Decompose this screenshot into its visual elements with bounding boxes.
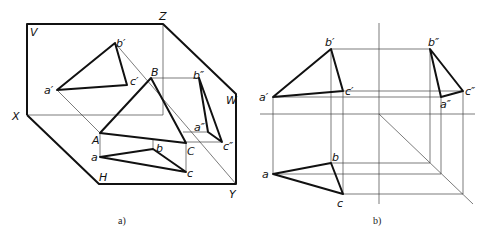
label-c-side: c″ bbox=[465, 85, 476, 98]
figure-b-orthographic: b′ c′ a′ b″ c″ a″ b a c b) bbox=[259, 23, 476, 227]
projection-diagrams: Z V X W H Y b′ c′ a′ B A C b″ a″ c″ a b … bbox=[0, 0, 485, 234]
label-B: B bbox=[151, 66, 159, 79]
label-v: V bbox=[30, 26, 39, 39]
label-a-front: a′ bbox=[259, 91, 269, 104]
miter-line bbox=[379, 114, 473, 204]
label-w: W bbox=[226, 94, 238, 107]
label-b-top: b bbox=[156, 142, 163, 155]
label-c-front: c′ bbox=[345, 85, 354, 98]
label-b-front: b′ bbox=[325, 36, 335, 49]
label-c-top: c bbox=[337, 197, 343, 210]
top-projection-triangle bbox=[100, 149, 186, 172]
figure-a-isometric: Z V X W H Y b′ c′ a′ B A C b″ a″ c″ a b … bbox=[11, 10, 238, 227]
label-y: Y bbox=[229, 188, 237, 201]
caption-b: b) bbox=[373, 215, 381, 227]
label-a-top: a bbox=[262, 168, 269, 181]
label-a-side: a″ bbox=[194, 121, 206, 134]
label-a-side: a″ bbox=[440, 98, 452, 111]
label-h: H bbox=[99, 171, 107, 184]
label-a-front: a′ bbox=[44, 84, 54, 97]
front-view-triangle bbox=[273, 49, 343, 97]
front-projection-triangle bbox=[57, 43, 127, 90]
top-view-triangle bbox=[273, 163, 343, 194]
plane-frame bbox=[27, 24, 236, 184]
label-b-side: b″ bbox=[428, 36, 440, 49]
projector-a bbox=[57, 90, 100, 133]
label-b-top: b bbox=[332, 151, 339, 164]
side-view-triangle bbox=[430, 49, 463, 97]
label-x: X bbox=[11, 110, 20, 123]
label-z: Z bbox=[158, 10, 167, 23]
label-c-front: c′ bbox=[130, 75, 139, 88]
label-b-front: b′ bbox=[116, 37, 126, 50]
label-A: A bbox=[91, 134, 100, 147]
label-c-top: c bbox=[187, 167, 193, 180]
label-a-top: a bbox=[91, 151, 98, 164]
label-c-side: c″ bbox=[223, 140, 234, 153]
label-b-side: b″ bbox=[193, 69, 205, 82]
caption-a: a) bbox=[118, 215, 126, 227]
label-C: C bbox=[187, 145, 195, 158]
